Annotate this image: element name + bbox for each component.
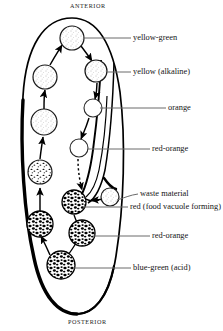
vacuole-left-mid xyxy=(28,160,52,184)
diagram-canvas: ANTERIOR POSTERIOR yellow-green yellow (… xyxy=(0,0,223,331)
paramecium-diagram-svg xyxy=(0,0,223,331)
vacuole-blue-green-acid xyxy=(47,251,75,279)
label-red-orange-lower: red-orange xyxy=(152,231,188,241)
label-red-food-vacuole-forming: red (food vacuole forming) xyxy=(129,202,221,212)
vacuole-yellow-alkaline xyxy=(85,60,107,82)
vacuole-red-food-forming xyxy=(62,190,86,214)
label-waste-material: waste material xyxy=(140,189,189,199)
vacuole-left-top xyxy=(33,65,57,89)
vacuole-left-upper xyxy=(31,109,57,135)
label-yellow-green: yellow-green xyxy=(133,33,177,43)
label-orange: orange xyxy=(168,103,191,113)
anterior-label: ANTERIOR xyxy=(70,2,106,9)
vacuole-yellow-green xyxy=(60,26,84,50)
posterior-label: POSTERIOR xyxy=(68,318,107,325)
label-blue-green-acid: blue-green (acid) xyxy=(133,263,190,273)
vacuole-left-lower xyxy=(27,211,53,237)
vacuole-orange xyxy=(84,99,102,117)
vacuole-waste-material xyxy=(101,188,119,206)
label-red-orange-upper: red-orange xyxy=(152,144,188,154)
vacuole-red-orange-lower xyxy=(69,220,95,246)
label-yellow-alkaline: yellow (alkaline) xyxy=(133,67,190,77)
vacuole-red-orange-upper xyxy=(70,139,88,157)
